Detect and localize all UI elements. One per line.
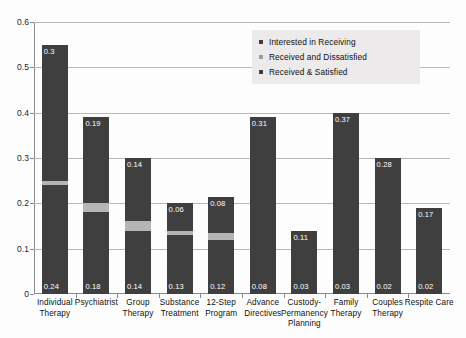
bar-segment[interactable] [125,221,151,230]
bar-segment[interactable]: 0.18 [83,212,109,294]
stacked-bar[interactable]: 0.170.02 [416,208,442,294]
bar-slot: 0.080.12 [200,22,242,294]
bar-segment[interactable]: 0.31 [250,117,276,258]
stacked-bar[interactable]: 0.190.18 [83,117,109,294]
stacked-bar[interactable]: 0.370.03 [333,113,359,294]
bar-value-label: 0.03 [293,283,308,291]
chart-legend: Interested in Receiving Received and Dis… [252,30,420,84]
bar-value-label: 0.18 [85,283,100,291]
x-axis-category-label: Respite Care [402,298,456,309]
stacked-bar[interactable]: 0.310.08 [250,117,276,294]
bar-segment[interactable] [208,233,234,240]
bar-segment[interactable]: 0.03 [333,280,359,294]
bar-value-label: 0.08 [210,200,225,208]
bar-segment[interactable]: 0.28 [375,158,401,285]
bar-value-label: 0.3 [44,48,55,56]
x-axis-label-line: Respite Care [402,298,456,309]
bar-value-label: 0.06 [169,206,184,214]
bar-segment[interactable]: 0.3 [42,45,68,181]
legend-swatch-icon [259,40,263,44]
bar-segment[interactable]: 0.17 [416,208,442,285]
x-axis-label-line: Therapy [361,309,415,320]
stacked-bar-chart: 00.10.20.30.40.50.6 0.30.240.190.180.140… [0,0,466,338]
bar-segment[interactable]: 0.08 [208,197,234,233]
bar-value-label: 0.08 [252,283,267,291]
x-axis-label-line: Planning [278,319,332,330]
bar-value-label: 0.13 [169,283,184,291]
bar-slot: 0.190.18 [76,22,118,294]
y-axis-tick-label: 0.4 [17,108,29,118]
y-axis-tick-label: 0.5 [17,62,29,72]
bar-segment[interactable]: 0.14 [125,158,151,221]
bar-segment[interactable]: 0.08 [250,258,276,294]
bar-segment[interactable]: 0.02 [375,285,401,294]
bar-value-label: 0.14 [127,161,142,169]
bar-segment[interactable]: 0.14 [125,231,151,294]
bar-value-label: 0.17 [418,211,433,219]
y-axis-tick-label: 0.1 [17,244,29,254]
bar-slot: 0.30.24 [34,22,76,294]
bar-segment[interactable]: 0.12 [208,240,234,294]
y-axis-tick-label: 0.2 [17,198,29,208]
y-axis-tick-label: 0.6 [17,17,29,27]
bar-value-label: 0.37 [335,116,350,124]
bar-segment[interactable]: 0.06 [167,203,193,230]
stacked-bar[interactable]: 0.30.24 [42,45,68,294]
y-axis-tick-mark [30,294,34,295]
stacked-bar[interactable]: 0.140.14 [125,158,151,294]
bar-segment[interactable]: 0.02 [416,285,442,294]
bar-value-label: 0.28 [377,161,392,169]
legend-item: Received and Dissatisfied [258,49,414,64]
stacked-bar[interactable]: 0.060.13 [167,203,193,294]
legend-item-label: Received & Satisfied [269,67,348,77]
bar-segment[interactable]: 0.24 [42,185,68,294]
x-axis-category-labels: IndividualTherapyPsychiatristGroup Thera… [34,298,450,338]
bar-value-label: 0.11 [293,234,308,242]
legend-swatch-icon [259,55,263,59]
bar-value-label: 0.03 [335,283,350,291]
bar-value-label: 0.14 [127,283,142,291]
bar-value-label: 0.24 [44,283,59,291]
bar-value-label: 0.19 [85,120,100,128]
bar-segment[interactable]: 0.19 [83,117,109,203]
bar-value-label: 0.12 [210,283,225,291]
bar-slot: 0.140.14 [117,22,159,294]
bar-value-label: 0.31 [252,120,267,128]
bar-slot: 0.060.13 [159,22,201,294]
stacked-bar[interactable]: 0.110.03 [291,231,317,294]
x-axis-label-line: Therapy [28,309,82,320]
bar-value-label: 0.02 [377,283,392,291]
legend-item-label: Interested in Receiving [269,37,356,47]
stacked-bar[interactable]: 0.080.12 [208,197,234,294]
legend-item: Interested in Receiving [258,34,414,49]
bar-value-label: 0.02 [418,283,433,291]
bar-segment[interactable]: 0.37 [333,113,359,281]
legend-item-label: Received and Dissatisfied [269,52,367,62]
legend-swatch-icon [259,70,263,74]
bar-segment[interactable]: 0.03 [291,280,317,294]
bar-segment[interactable] [83,203,109,212]
bar-segment[interactable]: 0.11 [291,231,317,281]
bar-segment[interactable]: 0.13 [167,235,193,294]
legend-item: Received & Satisfied [258,64,414,79]
y-axis-tick-label: 0.3 [17,153,29,163]
stacked-bar[interactable]: 0.280.02 [375,158,401,294]
